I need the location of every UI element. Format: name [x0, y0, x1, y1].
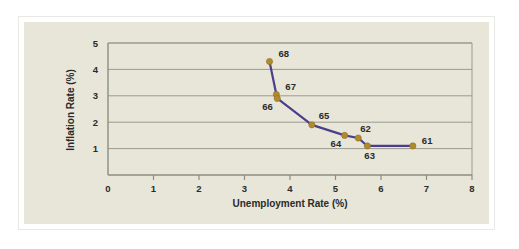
- x-tick-label-8: 8: [469, 183, 474, 194]
- x-tick-label-1: 1: [151, 183, 157, 194]
- data-point-marker-65: [309, 122, 315, 128]
- x-tick-label-3: 3: [242, 183, 247, 194]
- series-polyline-phillips-curve: [270, 61, 413, 145]
- x-tick-label-0: 0: [105, 183, 110, 194]
- data-point-label-61: 61: [422, 135, 433, 146]
- y-tick-label-1: 1: [93, 143, 99, 154]
- data-point-label-68: 68: [279, 48, 290, 59]
- y-tick-label-3: 3: [93, 90, 98, 101]
- data-point-marker-62: [355, 135, 361, 141]
- data-point-label-64: 64: [331, 138, 342, 149]
- data-point-marker-64: [342, 132, 348, 138]
- y-axis-title: Inflation Rate (%): [65, 69, 76, 151]
- x-tick-label-7: 7: [424, 183, 429, 194]
- chart-page: 012345678 12345 6867666564626361 Unemplo…: [0, 0, 519, 249]
- data-point-label-63: 63: [364, 150, 375, 161]
- series-markers: [266, 58, 416, 149]
- x-tick-label-6: 6: [378, 183, 383, 194]
- data-point-marker-66: [274, 95, 280, 101]
- phillips-curve-chart: 012345678 12345 6867666564626361 Unemplo…: [0, 0, 519, 249]
- data-point-label-65: 65: [319, 110, 330, 121]
- data-point-label-62: 62: [360, 123, 371, 134]
- y-tick-label-5: 5: [93, 38, 99, 49]
- x-tick-label-4: 4: [287, 183, 293, 194]
- x-tick-label-2: 2: [196, 183, 201, 194]
- y-tick-label-4: 4: [93, 64, 99, 75]
- data-point-label-67: 67: [285, 81, 296, 92]
- data-point-marker-68: [266, 58, 272, 64]
- data-point-labels: 6867666564626361: [262, 48, 433, 160]
- x-axis-title: Unemployment Rate (%): [232, 198, 347, 209]
- x-tick-label-5: 5: [333, 183, 339, 194]
- series-line: [270, 61, 413, 145]
- x-axis-tick-labels: 012345678: [105, 175, 474, 194]
- data-point-marker-63: [364, 143, 370, 149]
- data-point-label-66: 66: [262, 101, 273, 112]
- y-axis-tick-labels: 12345: [93, 38, 99, 155]
- data-point-marker-61: [410, 143, 416, 149]
- y-tick-label-2: 2: [93, 117, 98, 128]
